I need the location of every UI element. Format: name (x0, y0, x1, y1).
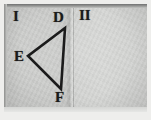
screenshot-root: I II D E F (0, 0, 151, 120)
panel-label-one: I (13, 9, 19, 24)
panel-label-two: II (79, 8, 91, 23)
vertex-label-f: F (55, 90, 64, 105)
triangle-def-drawing (4, 4, 147, 112)
vertex-label-e: E (14, 49, 24, 64)
paper-sheet: I II D E F (4, 4, 147, 112)
triangle-def-outline (28, 28, 65, 89)
vertex-label-d: D (53, 10, 64, 25)
